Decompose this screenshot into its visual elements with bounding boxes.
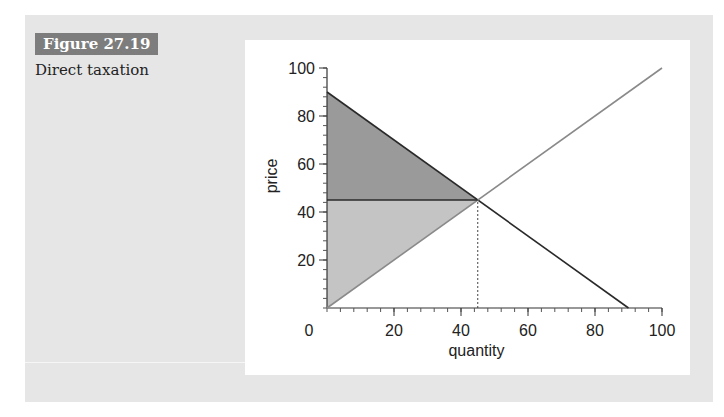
x-tick-label: 40 [452, 322, 470, 339]
y-tick-label: 80 [297, 108, 315, 125]
y-tick-label: 60 [297, 156, 315, 173]
x-tick-label: 100 [649, 322, 676, 339]
x-tick-label: 0 [305, 322, 314, 339]
y-tick-label: 20 [297, 252, 315, 269]
figure-title: Direct taxation [35, 60, 149, 80]
caption-divider [25, 362, 245, 363]
x-tick-label: 20 [385, 322, 403, 339]
y-axis-label: price [263, 159, 280, 194]
y-tick-label: 40 [297, 204, 315, 221]
x-axis-label: quantity [448, 342, 504, 359]
x-tick-label: 80 [586, 322, 604, 339]
figure-number-label: Figure 27.19 [35, 33, 158, 55]
x-tick-label: 60 [519, 322, 537, 339]
y-tick-label: 100 [288, 60, 315, 77]
supply-demand-chart: 02040608010020406080100quantityprice [245, 40, 690, 375]
chart-area: 02040608010020406080100quantityprice [245, 40, 690, 375]
